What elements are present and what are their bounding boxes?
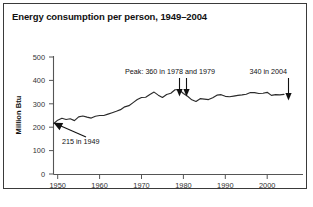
y-tick-label-300: 300: [33, 100, 45, 109]
x-tick-label-1950: 1950: [49, 181, 65, 190]
y-tick-label-500: 500: [33, 53, 45, 62]
arrow-head-icon: [176, 89, 182, 97]
x-tick-label-1970: 1970: [133, 181, 149, 190]
y-tick-label-400: 400: [33, 76, 45, 85]
y-axis: 500 400 300 200 100 0: [33, 53, 54, 179]
y-tick-label-200: 200: [33, 123, 45, 132]
x-axis: 1950 1960 1970 1980 1990 2000: [49, 175, 303, 191]
arrow-head-icon: [183, 89, 189, 97]
annotation-end-value: 340 in 2004: [249, 67, 291, 101]
y-tick-label-0: 0: [41, 170, 45, 179]
x-tick-label-1980: 1980: [175, 181, 191, 190]
y-tick-label-100: 100: [33, 146, 45, 155]
x-tick-label-1960: 1960: [91, 181, 107, 190]
annotation-start-value: 215 in 1949: [54, 123, 100, 146]
annotation-peak-value: Peak: 360 in 1978 and 1979: [125, 67, 215, 97]
arrow-head-icon: [285, 93, 291, 101]
data-line-energy-consumption: [54, 90, 284, 124]
x-tick-label-2000: 2000: [259, 181, 275, 190]
annotation-start-label: 215 in 1949: [62, 137, 100, 146]
chart-figure: Energy consumption per person, 1949–2004…: [0, 0, 313, 207]
annotation-peak-label: Peak: 360 in 1978 and 1979: [125, 67, 215, 76]
x-tick-label-1990: 1990: [217, 181, 233, 190]
annotation-end-label: 340 in 2004: [249, 67, 287, 76]
chart-plot-area: 500 400 300 200 100 0 Million Btu 1950 1…: [0, 0, 313, 207]
y-axis-title: Million Btu: [14, 95, 23, 134]
